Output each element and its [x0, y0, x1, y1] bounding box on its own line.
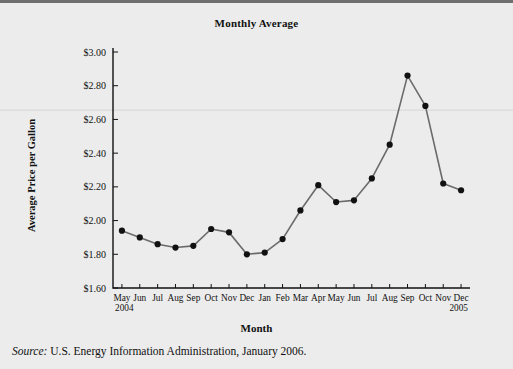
x-axis-tick-label: Apr	[311, 293, 326, 303]
data-point	[387, 142, 393, 148]
svg-text:$2.80: $2.80	[84, 80, 107, 91]
source-note: Source: U.S. Energy Information Administ…	[12, 345, 307, 357]
svg-text:$1.60: $1.60	[84, 283, 107, 294]
data-point	[244, 251, 250, 257]
data-point	[333, 199, 339, 205]
x-axis-tick-label: May	[113, 293, 130, 303]
svg-text:$3.00: $3.00	[84, 47, 107, 58]
line-chart: $3.00$2.80$2.60$2.40$2.20$2.00$1.80$1.60…	[0, 0, 513, 369]
x-axis-tick-label: Mar	[293, 293, 309, 303]
data-point	[458, 187, 464, 193]
data-point	[226, 229, 232, 235]
data-point	[422, 103, 428, 109]
x-axis-tick-label: Jul	[366, 293, 377, 303]
data-point	[119, 228, 125, 234]
svg-text:$1.80: $1.80	[84, 249, 107, 260]
x-axis-tick-label: Nov	[221, 293, 237, 303]
x-axis-tick-label: Aug	[167, 293, 183, 303]
x-axis-tick-label: Jun	[348, 293, 361, 303]
x-axis-tick-label: Feb	[276, 293, 290, 303]
x-axis-tick-label: Jul	[152, 293, 163, 303]
data-point	[404, 73, 410, 79]
x-axis-tick-label: Sep	[401, 293, 415, 303]
svg-text:$2.20: $2.20	[84, 181, 107, 192]
svg-text:$2.40: $2.40	[84, 148, 107, 159]
x-axis-tick-label: Oct	[204, 293, 218, 303]
x-axis-tick-label: Dec	[239, 293, 254, 303]
data-point	[279, 236, 285, 242]
x-axis-tick-label: Jun	[133, 293, 146, 303]
x-axis-tick-label: Aug	[382, 293, 398, 303]
data-point	[351, 197, 357, 203]
x-axis-tick-label: Sep	[186, 293, 200, 303]
figure-panel: Monthly Average Average Price per Gallon…	[0, 0, 513, 369]
svg-text:$2.60: $2.60	[84, 114, 107, 125]
data-point	[155, 241, 161, 247]
x-axis-label-group: MayJunJulAugSepOctNovDecJanFebMarAprMayJ…	[113, 293, 468, 303]
x-axis-title: Month	[0, 322, 513, 334]
data-point	[190, 243, 196, 249]
svg-text:$2.00: $2.00	[84, 215, 107, 226]
data-point	[137, 234, 143, 240]
x-axis-tick-label: May	[328, 293, 345, 303]
x-axis-tick-label: Nov	[435, 293, 451, 303]
year-label-group: 20042005	[115, 303, 468, 313]
data-point	[172, 244, 178, 250]
data-point	[297, 207, 303, 213]
source-body: U.S. Energy Information Administration, …	[47, 345, 306, 357]
x-axis-tick-label: Jan	[259, 293, 272, 303]
axis-lines	[113, 48, 470, 288]
end-year-label: 2005	[449, 303, 468, 313]
data-point	[262, 250, 268, 256]
price-series-line	[122, 76, 461, 255]
data-point-group	[119, 73, 464, 258]
data-point	[208, 226, 214, 232]
data-point	[315, 182, 321, 188]
x-axis-tick-label: Oct	[419, 293, 433, 303]
start-year-label: 2004	[115, 303, 134, 313]
data-point	[440, 180, 446, 186]
data-point	[369, 175, 375, 181]
source-label: Source:	[12, 345, 47, 357]
x-axis-tick-label: Dec	[454, 293, 469, 303]
